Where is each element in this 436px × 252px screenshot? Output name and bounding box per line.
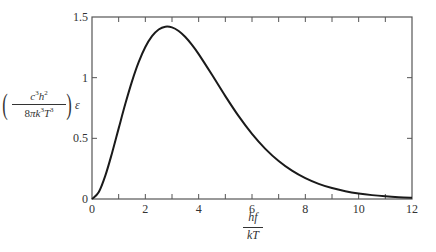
y-axis-label: ( c3h2 8πk3T3 ) ε (2, 86, 86, 126)
plot-border (92, 17, 412, 199)
x-tick-label: 10 (353, 202, 365, 216)
x-label-denominator: kT (238, 228, 268, 243)
x-tick-label: 12 (406, 202, 418, 216)
left-paren: ( (2, 89, 8, 119)
chart-svg: 024681012 00.511.5 (0, 0, 436, 252)
y-label-numerator: c3h2 (12, 89, 66, 102)
x-tick-label: 4 (196, 202, 202, 216)
x-tick-label: 2 (142, 202, 148, 216)
y-tick-label: 1 (82, 71, 88, 85)
y-label-fraction-bar (12, 104, 66, 105)
y-label-denominator: 8πk3T3 (12, 106, 66, 119)
x-label-numerator: hf (238, 210, 268, 225)
y-tick-label: 0.5 (73, 131, 88, 145)
right-paren: ) (66, 89, 72, 119)
x-tick-label: 0 (89, 202, 95, 216)
x-axis-label: hf kT (238, 210, 268, 246)
plot-frame (92, 17, 412, 199)
y-tick-label: 1.5 (73, 10, 88, 24)
y-den-exp-3: 3 (50, 106, 54, 114)
y-num-exp-1: 2 (44, 89, 48, 97)
axis-ticks (92, 17, 412, 199)
y-tick-label: 0 (82, 192, 88, 206)
series-group (92, 27, 412, 199)
series-line (92, 27, 412, 199)
x-tick-label: 8 (302, 202, 308, 216)
y-label-epsilon: ε (75, 98, 80, 113)
